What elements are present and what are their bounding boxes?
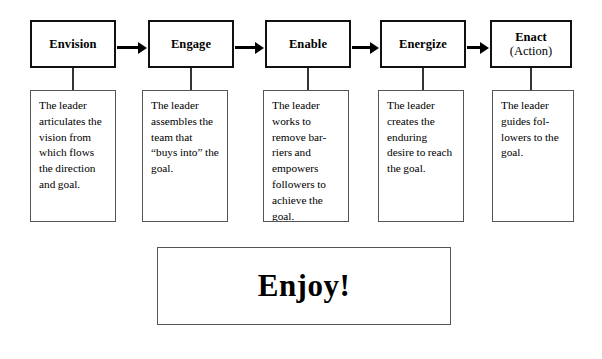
- arrow-line: [467, 46, 481, 49]
- stage-box-energize: Energize: [380, 20, 466, 68]
- arrow-line: [352, 46, 371, 49]
- arrow-head-icon: [370, 42, 379, 54]
- connector-energize: [422, 68, 424, 90]
- arrow-envision-to-engage: [117, 42, 147, 54]
- description-box-enable: The leader works to remove bar-riers and…: [263, 90, 349, 222]
- arrow-head-icon: [255, 42, 264, 54]
- stage-title-enact: Enact: [515, 30, 547, 44]
- stage-title-enable: Enable: [289, 37, 327, 51]
- stage-box-enable: Enable: [265, 20, 351, 68]
- enjoy-box: Enjoy!: [157, 247, 451, 325]
- enjoy-label: Enjoy!: [258, 268, 351, 304]
- stage-title-engage: Engage: [171, 37, 211, 51]
- arrow-head-icon: [138, 42, 147, 54]
- stage-box-enact: Enact (Action): [490, 20, 572, 68]
- connector-enact: [530, 68, 532, 90]
- arrow-head-icon: [480, 42, 489, 54]
- arrow-enable-to-energize: [352, 42, 379, 54]
- connector-engage: [190, 68, 192, 90]
- stage-box-envision: Envision: [30, 20, 116, 68]
- description-box-engage: The leader assembles the team that “buys…: [142, 90, 228, 222]
- description-box-energize: The leader creates the enduring desire t…: [378, 90, 464, 222]
- arrow-energize-to-enact: [467, 42, 489, 54]
- connector-enable: [307, 68, 309, 90]
- leadership-process-diagram: Envision Engage Enable Energize Enact (A…: [0, 0, 602, 359]
- arrow-engage-to-enable: [235, 42, 264, 54]
- stage-title-energize: Energize: [399, 37, 447, 51]
- stage-subtitle-enact: (Action): [510, 44, 552, 58]
- stage-box-engage: Engage: [148, 20, 234, 68]
- arrow-line: [235, 46, 256, 49]
- stage-title-envision: Envision: [49, 37, 96, 51]
- connector-envision: [72, 68, 74, 90]
- arrow-line: [117, 46, 139, 49]
- description-box-envision: The leader articulates the vision from w…: [30, 90, 116, 222]
- description-box-enact: The leader guides fol-lowers to the goal…: [492, 90, 574, 222]
